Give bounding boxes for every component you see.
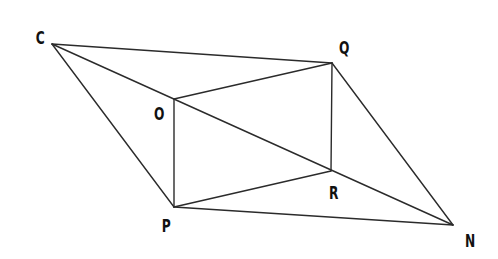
segment-p-n bbox=[174, 207, 453, 225]
geometry-diagram: C Q O P R N bbox=[0, 0, 498, 259]
label-r: R bbox=[329, 183, 339, 203]
vertex-labels: C Q O P R N bbox=[36, 28, 475, 251]
segment-o-q bbox=[174, 63, 332, 99]
label-c: C bbox=[36, 28, 45, 48]
label-p: P bbox=[162, 216, 171, 236]
segment-q-r bbox=[331, 63, 332, 171]
segment-c-p bbox=[52, 44, 174, 207]
label-o: O bbox=[154, 104, 164, 124]
segments-group bbox=[52, 44, 453, 225]
segment-p-r bbox=[174, 171, 331, 207]
segment-c-n bbox=[52, 44, 453, 225]
label-n: N bbox=[465, 231, 475, 251]
label-q: Q bbox=[339, 38, 349, 58]
segment-q-n bbox=[332, 63, 453, 225]
segment-c-q bbox=[52, 44, 332, 63]
